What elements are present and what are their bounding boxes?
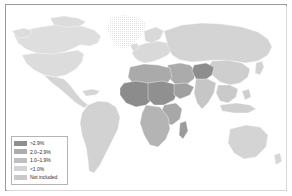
legend-swatch xyxy=(14,158,27,163)
legend-swatch xyxy=(14,166,27,171)
legend-swatch xyxy=(14,141,27,146)
legend-swatch xyxy=(14,149,27,154)
legend-item: Not included xyxy=(14,173,65,181)
legend-label: <1.0% xyxy=(30,166,44,172)
legend-item: 2.0–2.9% xyxy=(14,148,65,156)
legend-swatch xyxy=(14,175,27,180)
legend-label: Not included xyxy=(30,174,57,180)
map-legend: >2.9% 2.0–2.9% 1.0–1.9% <1.0% Not includ… xyxy=(11,136,68,185)
legend-item: 1.0–1.9% xyxy=(14,156,65,164)
figure-container: >2.9% 2.0–2.9% 1.0–1.9% <1.0% Not includ… xyxy=(0,0,292,196)
legend-item: >2.9% xyxy=(14,139,65,147)
legend-label: 2.0–2.9% xyxy=(30,149,51,155)
legend-item: <1.0% xyxy=(14,165,65,173)
legend-label: >2.9% xyxy=(30,140,44,146)
legend-label: 1.0–1.9% xyxy=(30,157,51,163)
